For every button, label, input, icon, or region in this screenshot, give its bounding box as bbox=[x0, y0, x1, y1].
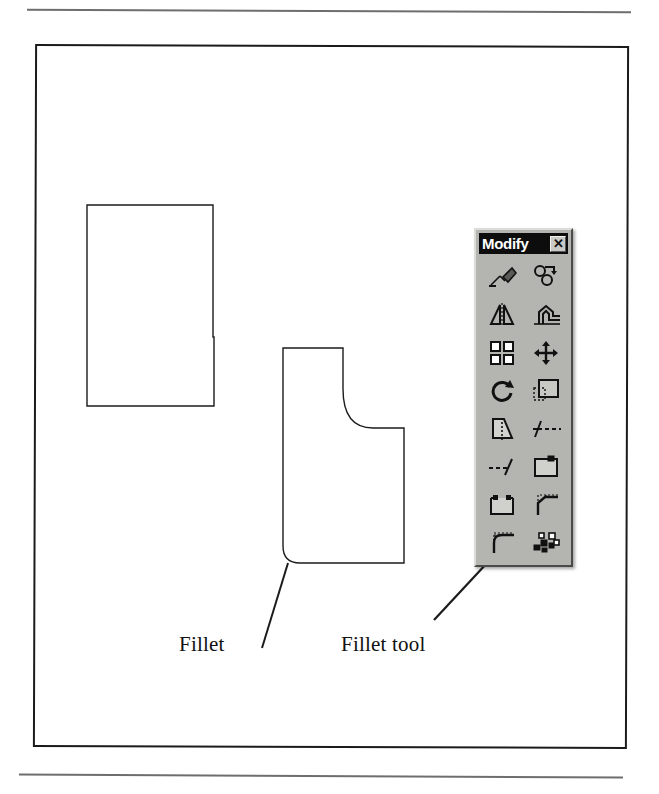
scale-icon bbox=[532, 378, 560, 404]
modify-toolbar[interactable]: Modify ✕ bbox=[474, 228, 573, 567]
page-canvas: Fillet Fillet tool Modify ✕ bbox=[0, 0, 659, 794]
tool-button-break[interactable] bbox=[480, 486, 524, 524]
fillet-icon bbox=[488, 531, 516, 555]
tool-button-extend[interactable] bbox=[480, 448, 524, 486]
tool-button-array[interactable] bbox=[480, 334, 524, 372]
tool-button-scale[interactable] bbox=[524, 372, 568, 410]
fillet-tool-label: Fillet tool bbox=[341, 632, 425, 657]
close-icon[interactable]: ✕ bbox=[550, 236, 566, 252]
break-at-point-icon bbox=[532, 455, 560, 479]
tool-button-trim[interactable] bbox=[524, 410, 568, 448]
move-icon bbox=[533, 340, 559, 366]
tool-button-explode[interactable] bbox=[524, 524, 568, 562]
tool-button-mirror[interactable] bbox=[480, 296, 524, 334]
tool-button-offset[interactable] bbox=[524, 296, 568, 334]
tool-button-break-at-point[interactable] bbox=[524, 448, 568, 486]
array-icon bbox=[489, 340, 515, 366]
offset-icon bbox=[531, 302, 561, 328]
break-icon bbox=[488, 493, 516, 517]
toolbar-title: Modify bbox=[482, 236, 529, 251]
tool-button-copy[interactable] bbox=[524, 258, 568, 296]
tool-button-stretch[interactable] bbox=[480, 410, 524, 448]
rotate-icon bbox=[489, 378, 515, 404]
toolbar-button-grid bbox=[480, 258, 568, 562]
toolbar-titlebar[interactable]: Modify ✕ bbox=[479, 233, 568, 254]
stretch-icon bbox=[488, 416, 516, 442]
explode-icon bbox=[532, 531, 560, 555]
extend-icon bbox=[487, 456, 517, 478]
tool-button-rotate[interactable] bbox=[480, 372, 524, 410]
mirror-icon bbox=[488, 302, 516, 328]
erase-icon bbox=[487, 264, 517, 290]
trim-icon bbox=[531, 418, 561, 440]
header-rule bbox=[27, 9, 631, 14]
copy-icon bbox=[532, 264, 560, 290]
tool-button-chamfer[interactable] bbox=[524, 486, 568, 524]
tool-button-fillet[interactable] bbox=[480, 524, 524, 562]
footer-rule bbox=[19, 774, 623, 779]
fillet-label: Fillet bbox=[179, 632, 225, 657]
tool-button-erase[interactable] bbox=[480, 258, 524, 296]
chamfer-icon bbox=[532, 493, 560, 517]
tool-button-move[interactable] bbox=[524, 334, 568, 372]
